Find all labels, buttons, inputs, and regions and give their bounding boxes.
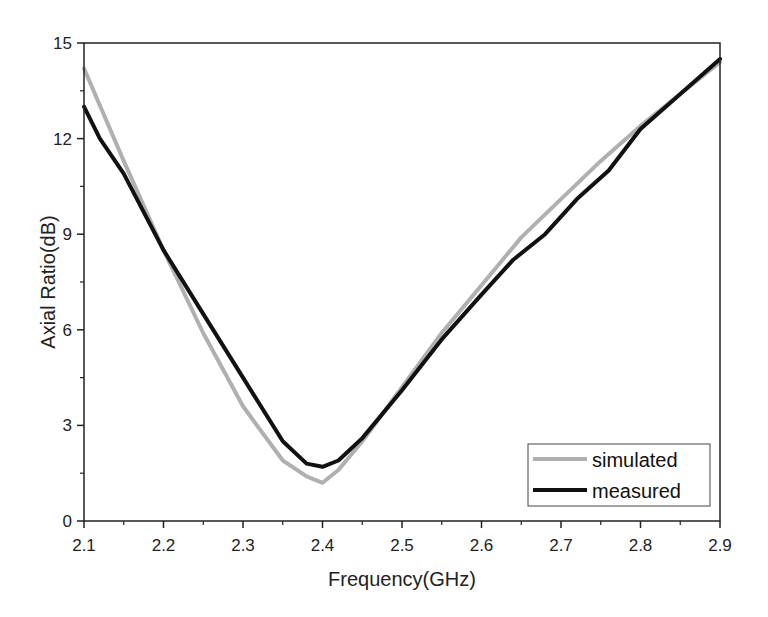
axial-ratio-chart: 2.12.22.32.42.52.62.72.82.903691215 Freq… [0, 0, 768, 617]
y-tick-label: 12 [53, 130, 72, 149]
y-tick-label: 0 [63, 512, 72, 531]
x-tick-label: 2.2 [152, 536, 176, 555]
x-tick-label: 2.5 [390, 536, 414, 555]
x-tick-label: 2.8 [629, 536, 653, 555]
x-tick-label: 2.7 [549, 536, 573, 555]
series-layer [84, 59, 720, 483]
x-tick-label: 2.1 [72, 536, 96, 555]
y-tick-label: 9 [63, 225, 72, 244]
y-tick-label: 3 [63, 416, 72, 435]
legend-label-simulated: simulated [592, 449, 678, 471]
x-tick-label: 2.9 [708, 536, 732, 555]
x-axis-title: Frequency(GHz) [328, 568, 476, 590]
series-line-measured [84, 59, 720, 467]
y-tick-label: 6 [63, 321, 72, 340]
legend-label-measured: measured [592, 480, 681, 502]
y-axis-title: Axial Ratio(dB) [37, 215, 59, 348]
legend: simulated measured [528, 444, 710, 506]
x-tick-label: 2.4 [311, 536, 335, 555]
x-tick-label: 2.6 [470, 536, 494, 555]
x-tick-label: 2.3 [231, 536, 255, 555]
y-tick-label: 15 [53, 34, 72, 53]
